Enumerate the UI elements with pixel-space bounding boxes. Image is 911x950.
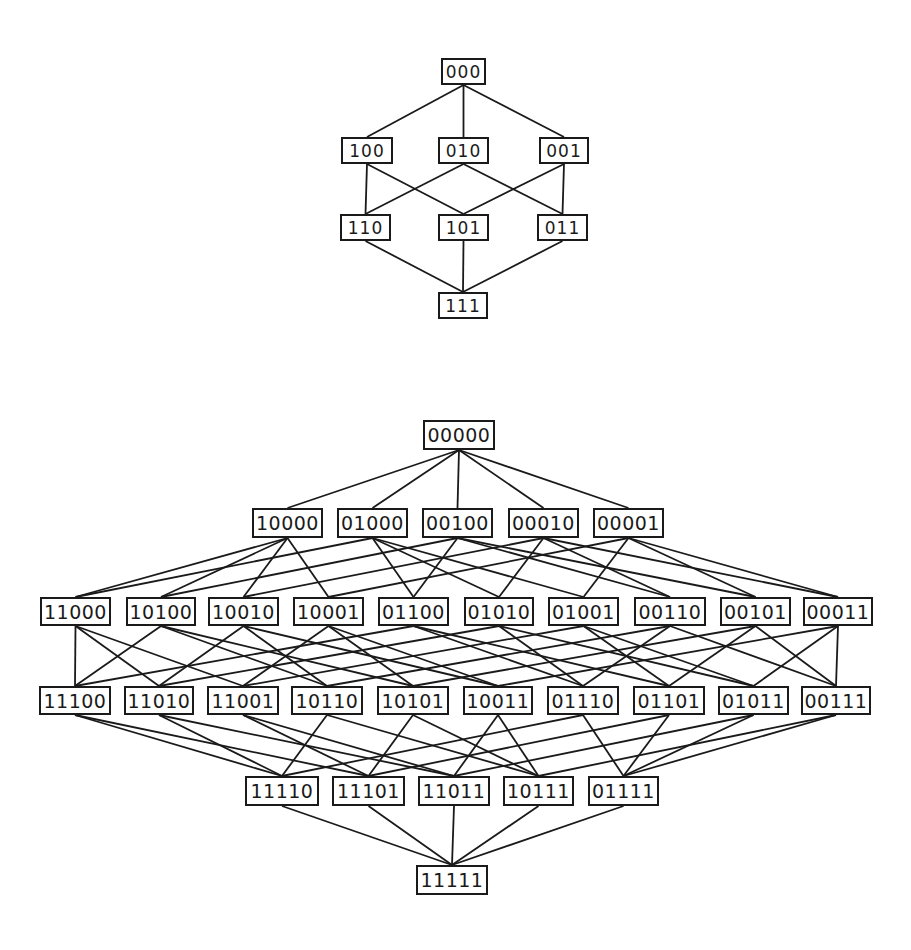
edge-00000-00001 [459, 450, 629, 508]
edge-00000-00100 [458, 450, 460, 508]
node-11011: 11011 [418, 776, 490, 806]
edge-101-111 [463, 241, 464, 292]
edge-10011-11011 [454, 715, 498, 776]
edge-01001-11001 [243, 626, 584, 686]
node-11111: 11111 [416, 865, 488, 895]
node-00011: 00011 [803, 597, 873, 626]
node-10000: 10000 [252, 508, 323, 538]
node-00100: 00100 [422, 508, 493, 538]
edge-011-111 [463, 241, 563, 292]
node-01011: 01011 [718, 686, 789, 715]
edge-000-100 [367, 85, 464, 137]
node-000: 000 [441, 58, 486, 85]
edge-01111-11111 [452, 806, 624, 865]
node-00110: 00110 [634, 597, 706, 626]
node-01000: 01000 [337, 508, 408, 538]
edge-10001-10101 [329, 626, 414, 686]
edge-00000-10000 [288, 450, 460, 508]
node-00001: 00001 [593, 508, 664, 538]
edge-01000-11000 [76, 538, 373, 597]
edge-11011-11111 [452, 806, 454, 865]
edge-000-001 [464, 85, 565, 137]
edge-01100-11100 [75, 626, 414, 686]
edge-11000-11001 [76, 626, 244, 686]
node-001: 001 [539, 137, 589, 164]
node-10001: 10001 [293, 597, 364, 626]
node-01110: 01110 [547, 686, 619, 715]
edge-100-110 [366, 164, 368, 214]
edge-00100-10100 [161, 538, 458, 597]
edge-10111-11111 [452, 806, 539, 865]
edge-00101-10101 [413, 626, 756, 686]
node-10101: 10101 [377, 686, 449, 715]
diagram-canvas: 0001000100011101010111110000010000010000… [0, 0, 911, 950]
node-11000: 11000 [40, 597, 111, 626]
edge-110-111 [366, 241, 464, 292]
edge-00111-10111 [539, 715, 837, 776]
node-11100: 11100 [39, 686, 111, 715]
node-10111: 10111 [503, 776, 574, 806]
node-11010: 11010 [124, 686, 194, 715]
node-00101: 00101 [720, 597, 791, 626]
node-01010: 01010 [464, 597, 534, 626]
edge-00011-10011 [498, 626, 838, 686]
node-11001: 11001 [207, 686, 279, 715]
node-01100: 01100 [378, 597, 449, 626]
edge-11110-11111 [282, 806, 452, 865]
edge-00000-00010 [459, 450, 544, 508]
node-101: 101 [438, 214, 489, 241]
edge-00000-01000 [373, 450, 460, 508]
node-10011: 10011 [463, 686, 533, 715]
edge-00110-00111 [670, 626, 836, 686]
edge-00111-01111 [624, 715, 837, 776]
node-01001: 01001 [548, 597, 619, 626]
node-111: 111 [438, 292, 488, 319]
edge-01010-11010 [159, 626, 499, 686]
node-10110: 10110 [291, 686, 363, 715]
node-01101: 01101 [633, 686, 705, 715]
edge-00001-00011 [629, 538, 839, 597]
node-00000: 00000 [423, 420, 495, 450]
edge-11000-11100 [75, 626, 76, 686]
node-100: 100 [341, 137, 393, 164]
node-00010: 00010 [508, 508, 579, 538]
node-011: 011 [537, 214, 588, 241]
node-11110: 11110 [245, 776, 319, 806]
edge-10000-10010 [244, 538, 288, 597]
edge-001-011 [563, 164, 565, 214]
node-11101: 11101 [332, 776, 405, 806]
edge-00011-00111 [836, 626, 838, 686]
edge-01011-11011 [454, 715, 754, 776]
node-10100: 10100 [126, 597, 196, 626]
edge-11101-11111 [369, 806, 453, 865]
node-110: 110 [340, 214, 391, 241]
edge-00100-01100 [414, 538, 458, 597]
edge-00110-10110 [327, 626, 670, 686]
edge-01101-01111 [624, 715, 670, 776]
node-01111: 01111 [588, 776, 659, 806]
node-00111: 00111 [801, 686, 871, 715]
node-010: 010 [438, 137, 489, 164]
node-10010: 10010 [208, 597, 279, 626]
